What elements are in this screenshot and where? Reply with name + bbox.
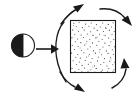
diagram-canvas — [0, 0, 139, 98]
square-outline — [71, 21, 116, 73]
figure-container — [0, 0, 139, 98]
stippled-square — [71, 21, 116, 73]
source-circle — [12, 34, 35, 57]
